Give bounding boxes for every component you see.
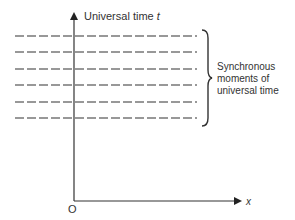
brace-label-line-2: moments of	[217, 73, 269, 84]
synchronous-lines	[15, 36, 197, 118]
y-axis-label: Universal time t	[84, 10, 161, 22]
x-axis-label: x	[245, 196, 252, 207]
curly-brace	[202, 30, 212, 126]
universal-time-diagram: Universal time t Synchronous moments of …	[0, 0, 295, 220]
origin-label: O	[68, 203, 77, 215]
brace-label-line-3: universal time	[217, 85, 279, 96]
brace-label-line-1: Synchronous	[217, 61, 275, 72]
